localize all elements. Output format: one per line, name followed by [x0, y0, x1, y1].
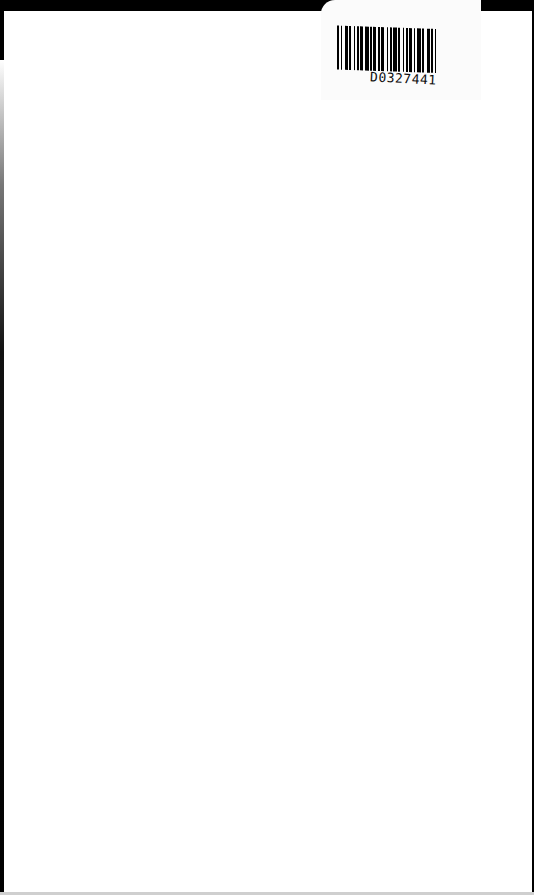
scanned-page: [4, 11, 532, 893]
scan-edge-left: [0, 60, 4, 895]
barcode-icon: [337, 26, 479, 75]
